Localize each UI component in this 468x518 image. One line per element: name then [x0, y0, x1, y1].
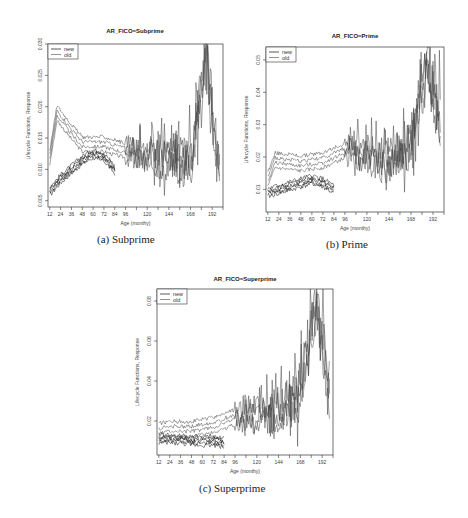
y-tick-label: 0.02: [146, 416, 152, 426]
x-tick-label: 144: [274, 459, 283, 465]
x-tick-label: 24: [167, 459, 173, 465]
x-tick-label: 192: [318, 459, 327, 465]
y-axis-label: Lifecycle Functions, Response: [134, 338, 140, 406]
x-tick-label: 168: [296, 459, 305, 465]
x-tick-label: 12: [156, 459, 162, 465]
x-tick-label: 84: [221, 459, 227, 465]
x-tick-label: 96: [232, 459, 238, 465]
series-line-old: [159, 289, 330, 439]
chart-title: AR_FICO=Superprime: [213, 276, 277, 282]
legend-label-old: old: [173, 297, 180, 303]
y-tick-label: 0.04: [146, 376, 152, 386]
chart-superprime-svg: AR_FICO=Superprime 122436486072849612014…: [0, 0, 468, 518]
x-tick-label: 120: [253, 459, 262, 465]
x-tick-label: 36: [178, 459, 184, 465]
caption-superprime: (c) Superprime: [199, 482, 265, 494]
x-tick-label: 48: [189, 459, 195, 465]
y-tick-label: 0.06: [146, 336, 152, 346]
series-line-old: [159, 289, 330, 431]
x-axis-label: Age (monthy): [230, 468, 260, 474]
x-tick-label: 72: [210, 459, 216, 465]
x-tick-label: 60: [200, 459, 206, 465]
plot-area: 12243648607284961201441681920.020.040.06…: [134, 289, 333, 474]
y-tick-label: 0.08: [146, 296, 152, 306]
chart-superprime: AR_FICO=Superprime 122436486072849612014…: [0, 0, 468, 518]
